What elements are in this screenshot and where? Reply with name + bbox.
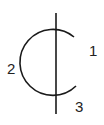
symbol-graphic	[0, 0, 104, 125]
pin-label-3: 3	[75, 99, 83, 114]
arc-electrode	[20, 29, 76, 95]
pin-label-1: 1	[89, 43, 97, 58]
pin-label-2: 2	[7, 61, 15, 76]
